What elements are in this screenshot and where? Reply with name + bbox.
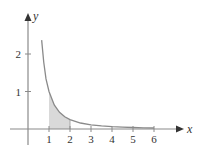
x-axis-arrow-icon <box>176 126 184 133</box>
x-tick-label-1: 1 <box>46 133 52 145</box>
x-tick-label-2: 2 <box>67 133 73 145</box>
x-tick-label-5: 5 <box>130 133 136 145</box>
shaded-area <box>49 92 70 130</box>
y-tick-label-2: 2 <box>16 48 22 60</box>
chart-canvas: 1 2 3 4 5 6 1 2 x y <box>0 0 200 151</box>
x-tick-label-6: 6 <box>151 133 157 145</box>
x-tick-label-3: 3 <box>88 133 94 145</box>
y-axis-label: y <box>32 9 39 23</box>
y-axis-arrow-icon <box>25 13 32 21</box>
y-tick-label-1: 1 <box>16 86 22 98</box>
x-tick-label-4: 4 <box>109 133 115 145</box>
x-axis-label: x <box>186 122 193 136</box>
